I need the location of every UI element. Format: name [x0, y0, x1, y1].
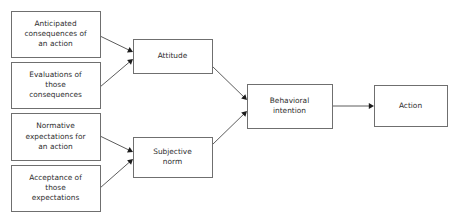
edge-anticipated-to-attitude [100, 36, 133, 52]
node-label: those [45, 80, 66, 89]
flowchart-diagram: Anticipatedconsequences ofan actionEvalu… [0, 0, 457, 215]
node-label: norm [163, 157, 182, 166]
edge-normative-to-subjective-norm [100, 136, 133, 152]
node-label: Evaluations of [29, 70, 82, 79]
edge-line [212, 114, 244, 145]
node-label: Normative [36, 121, 75, 130]
node-label: consequences of [24, 29, 87, 38]
node-label: Action [399, 101, 422, 110]
edge-attitude-to-intention [212, 66, 247, 100]
node-label: Behavioral [270, 96, 309, 105]
node-normative-expectations: Normativeexpectations foran action [12, 114, 101, 161]
edge-line [100, 36, 129, 50]
node-label: expectations [32, 193, 80, 202]
node-label: Subjective [153, 147, 192, 156]
edge-intention-to-action [332, 103, 374, 109]
node-label: intention [273, 106, 306, 115]
nodes-layer: Anticipatedconsequences ofan actionEvalu… [12, 12, 448, 212]
node-anticipated-consequences: Anticipatedconsequences ofan action [12, 12, 101, 58]
node-label: consequences [29, 90, 82, 99]
arrowhead-icon [369, 103, 374, 109]
node-evaluations-consequences: Evaluations ofthoseconsequences [12, 63, 101, 109]
edge-line [100, 162, 130, 188]
edge-subjective-norm-to-intention [212, 111, 247, 145]
node-acceptance-expectations: Acceptance ofthoseexpectations [12, 166, 101, 212]
edge-acceptance-to-subjective-norm [100, 159, 133, 188]
node-label: Acceptance of [29, 173, 82, 182]
node-subjective-norm: Subjectivenorm [134, 138, 213, 178]
node-label: those [45, 183, 66, 192]
edge-evaluations-to-attitude [100, 59, 133, 87]
flowchart-canvas: Anticipatedconsequences ofan actionEvalu… [0, 0, 457, 215]
node-label: Anticipated [34, 19, 76, 28]
node-behavioral-intention: Behavioralintention [248, 85, 333, 129]
edge-line [212, 66, 244, 97]
edge-line [100, 136, 129, 150]
edge-line [100, 62, 130, 87]
node-label: an action [38, 39, 73, 48]
node-label: Attitude [158, 51, 188, 60]
node-label: an action [38, 142, 73, 151]
node-attitude: Attitude [134, 40, 213, 74]
node-action: Action [375, 86, 448, 127]
node-label: expectations for [25, 132, 86, 141]
